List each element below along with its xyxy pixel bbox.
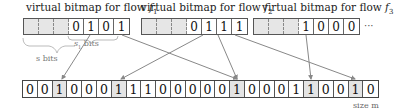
bit-cell: 1 <box>217 19 232 34</box>
bit-cell: 1 <box>127 81 142 97</box>
bit-cell: 0 <box>215 81 230 97</box>
title-text: virtual bitmap for flow <box>141 1 264 13</box>
bit-cell: 0 <box>69 19 84 34</box>
title-text: virtual bitmap for flow <box>262 1 385 13</box>
bit-cell <box>254 19 269 34</box>
bit-cell-mapped: 1 <box>304 81 319 97</box>
bit-cell <box>172 19 187 34</box>
bit-cell: 0 <box>171 81 186 97</box>
bit-cell <box>157 19 172 34</box>
bit-cell: 0 <box>38 81 53 97</box>
bit-cell <box>284 19 299 34</box>
bitmap-title-f1: virtual bitmap for flow f1 <box>26 1 157 16</box>
virtual-bitmap-f2: 0 1 1 1 <box>141 18 248 35</box>
s1-suffix: bits <box>81 39 99 48</box>
s-brace-icon <box>23 38 75 53</box>
bit-cell: 0 <box>97 81 112 97</box>
physical-bitmap: 0 0 1 0 0 0 1 1 1 0 0 0 0 0 1 0 0 0 1 1 … <box>22 80 379 98</box>
bit-cell-mapped: 1 <box>53 81 68 97</box>
bit-cell: 0 <box>67 81 82 97</box>
bit-cell: 1 <box>289 81 304 97</box>
bit-cell: 1 <box>84 19 99 34</box>
bit-cell <box>39 19 54 34</box>
bit-cell: 0 <box>260 81 275 97</box>
bit-cell: 0 <box>99 19 114 34</box>
bit-cell: 0 <box>314 19 329 34</box>
bit-cell <box>24 19 39 34</box>
bitmap-title-f3: virtual bitmap for flow f3 <box>262 1 393 16</box>
bit-cell-mapped: 1 <box>349 81 364 97</box>
bit-cell <box>269 19 284 34</box>
bit-cell: 1 <box>299 19 314 34</box>
bit-cell-mapped: 1 <box>112 81 127 97</box>
bit-cell: 1 <box>202 19 217 34</box>
virtual-bitmap-f1: 0 1 0 1 <box>23 18 130 35</box>
bit-cell: 0 <box>201 81 216 97</box>
bit-cell: 0 <box>187 19 202 34</box>
bit-cell: 0 <box>363 81 378 97</box>
bit-cell: 0 <box>319 81 334 97</box>
s1-bits-label: s1 bits <box>74 39 99 50</box>
bit-cell: 0 <box>334 81 349 97</box>
bit-cell: 0 <box>156 81 171 97</box>
flow-index: 3 <box>389 8 393 16</box>
bit-cell: 1 <box>232 19 247 34</box>
bitmap-title-f2: virtual bitmap for flow f2 <box>141 1 272 16</box>
s-bits-label: s bits <box>36 54 58 63</box>
bit-cell: 0 <box>275 81 290 97</box>
bit-cell: 0 <box>186 81 201 97</box>
ellipsis: ··· <box>364 20 374 31</box>
bit-cell: 0 <box>23 81 38 97</box>
bit-cell: 0 <box>245 81 260 97</box>
bit-cell-mapped: 1 <box>230 81 245 97</box>
virtual-bitmap-f3: 1 0 0 0 <box>253 18 360 35</box>
bit-cell: 1 <box>141 81 156 97</box>
size-m-label: size m <box>353 101 379 110</box>
bit-cell: 1 <box>114 19 129 34</box>
bit-cell: 0 <box>344 19 359 34</box>
bit-cell: 0 <box>329 19 344 34</box>
bit-cell <box>54 19 69 34</box>
bit-cell: 0 <box>82 81 97 97</box>
bit-cell <box>142 19 157 34</box>
title-text: virtual bitmap for flow <box>26 1 149 13</box>
